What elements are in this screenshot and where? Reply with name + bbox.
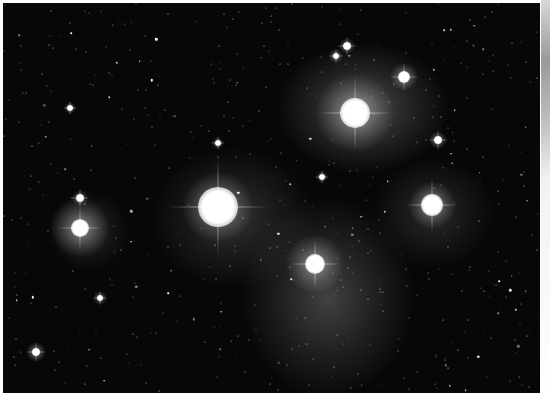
background-star xyxy=(519,273,520,274)
background-star xyxy=(214,244,215,245)
background-star xyxy=(130,210,132,212)
background-star xyxy=(92,85,93,86)
background-star xyxy=(148,114,149,115)
background-star xyxy=(328,161,329,162)
background-star xyxy=(169,167,170,168)
background-star xyxy=(353,272,354,273)
background-star xyxy=(360,290,361,291)
star-right-spike-vertical xyxy=(432,178,433,233)
background-star xyxy=(370,251,371,252)
background-star xyxy=(3,135,4,136)
background-star xyxy=(426,90,427,91)
background-star xyxy=(358,34,359,35)
background-star xyxy=(458,227,459,228)
background-star xyxy=(498,252,499,253)
background-star xyxy=(454,46,455,47)
background-star xyxy=(369,345,370,346)
background-star xyxy=(480,287,481,288)
background-star xyxy=(488,270,489,271)
background-star xyxy=(155,38,157,40)
background-star xyxy=(438,269,439,270)
background-star xyxy=(526,335,527,336)
background-star xyxy=(36,155,37,156)
background-star xyxy=(144,35,145,36)
background-star xyxy=(347,267,348,268)
background-star xyxy=(350,387,351,388)
background-star xyxy=(244,372,245,373)
background-star xyxy=(313,297,314,298)
background-star xyxy=(484,330,485,331)
background-star xyxy=(136,337,137,338)
background-star xyxy=(478,221,479,222)
background-star xyxy=(205,342,206,343)
background-star xyxy=(368,299,369,300)
background-star xyxy=(118,18,119,19)
background-star xyxy=(322,7,323,8)
background-star xyxy=(41,73,42,74)
background-star xyxy=(443,167,445,169)
background-star xyxy=(466,97,467,98)
background-star xyxy=(515,216,516,217)
background-star xyxy=(467,41,468,42)
background-star xyxy=(236,53,237,54)
background-star xyxy=(336,289,337,290)
background-star xyxy=(221,62,222,63)
background-star xyxy=(325,226,327,228)
background-star xyxy=(343,160,344,161)
background-star xyxy=(220,303,221,304)
background-star xyxy=(109,72,110,73)
background-star xyxy=(155,332,156,333)
background-star xyxy=(84,383,85,384)
star-lower-left-spike-vertical xyxy=(100,291,101,306)
background-star xyxy=(271,21,272,22)
background-star xyxy=(90,170,91,171)
background-star xyxy=(210,267,211,268)
background-star xyxy=(530,81,531,82)
background-star xyxy=(179,232,180,233)
background-star xyxy=(449,29,451,31)
background-star xyxy=(151,79,153,81)
background-star xyxy=(524,185,525,186)
background-star xyxy=(377,167,378,168)
background-star xyxy=(342,287,343,288)
background-star xyxy=(27,242,28,243)
background-star xyxy=(433,106,434,107)
background-star xyxy=(14,357,15,358)
background-star xyxy=(32,145,33,146)
background-star xyxy=(213,327,214,328)
background-star xyxy=(380,303,381,304)
background-star xyxy=(234,245,235,246)
background-star xyxy=(479,172,481,174)
background-star xyxy=(262,22,263,23)
star-lower-center-spike-vertical xyxy=(315,239,316,289)
background-star xyxy=(446,358,447,359)
background-star xyxy=(498,280,500,282)
background-star xyxy=(100,10,101,11)
background-star xyxy=(493,55,494,56)
background-star xyxy=(337,334,338,335)
background-star xyxy=(334,295,335,296)
background-star xyxy=(341,279,342,280)
background-star xyxy=(443,59,444,60)
background-star xyxy=(135,286,137,288)
star-center-top-spike-vertical xyxy=(218,136,219,151)
background-star xyxy=(158,85,159,86)
star-mid-spike-vertical xyxy=(322,170,323,185)
background-star xyxy=(336,233,337,234)
background-star xyxy=(113,251,114,252)
background-star xyxy=(415,143,416,144)
background-star xyxy=(109,97,111,99)
background-star xyxy=(477,356,479,358)
background-star xyxy=(59,361,60,362)
background-star xyxy=(144,107,145,108)
background-star xyxy=(521,152,522,153)
star-top-pair-a-spike-vertical xyxy=(347,36,348,56)
background-star xyxy=(444,360,445,361)
background-star xyxy=(103,380,105,382)
background-star xyxy=(218,45,219,46)
background-star xyxy=(280,199,281,200)
background-star xyxy=(461,63,462,64)
background-star xyxy=(489,61,490,62)
background-star xyxy=(159,390,160,391)
background-star xyxy=(454,140,455,141)
